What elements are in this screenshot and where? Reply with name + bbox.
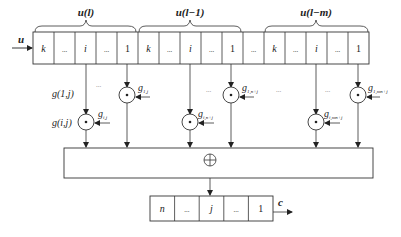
cell: ... [335, 46, 341, 54]
svg-text:gi,j: gi,j [98, 108, 108, 121]
cell: ... [251, 46, 257, 54]
multiplier-g-1-mn-j: g1,mn+j [350, 82, 388, 103]
output-register-cells: n ... j ... 1 [160, 203, 263, 214]
cell: ... [233, 206, 239, 214]
multiply-dot-icon [85, 121, 88, 124]
multiply-dot-icon [189, 121, 192, 124]
multiply-dot-icon [230, 94, 233, 97]
sum-box [64, 148, 373, 178]
output-label: c [278, 196, 283, 208]
cell: 1 [258, 203, 263, 214]
brace-u-l-m [265, 20, 368, 32]
cell: 1 [356, 43, 361, 54]
tap-lines [86, 64, 358, 147]
cell: ... [167, 46, 173, 54]
group-label-u-l-1: u(l−1) [176, 6, 205, 19]
group-label-u-l: u(l) [78, 6, 95, 19]
cell: ... [62, 46, 68, 54]
cell: i [189, 43, 192, 54]
multiplier-g-i-mn-j: gi,mn+j [308, 108, 343, 130]
multiply-dot-icon [315, 121, 318, 124]
cell: ... [209, 46, 215, 54]
multiplier-g-i-n-j: gi,n+j [182, 108, 214, 130]
cell: ... [184, 206, 190, 214]
cell: n [160, 203, 165, 214]
cell: 1 [230, 43, 235, 54]
svg-text:g1,n+j: g1,n+j [242, 82, 259, 95]
svg-text:...: ... [325, 86, 331, 94]
cell: ... [293, 46, 299, 54]
side-label-g-i-j: g(i,j) [52, 117, 72, 129]
multiply-dot-icon [357, 94, 360, 97]
svg-text:g1,mn+j: g1,mn+j [368, 82, 388, 95]
cell: j [208, 203, 213, 214]
svg-text:...: ... [276, 86, 282, 94]
multiply-dot-icon [126, 94, 129, 97]
convolutional-encoder-diagram: u(l) u(l−1) u(l−m) u k ... i ... 1 k ...… [0, 0, 401, 237]
svg-text:g1,j: g1,j [138, 82, 149, 95]
svg-text:...: ... [96, 81, 102, 89]
group-label-u-l-m: u(l−m) [300, 6, 332, 19]
svg-text:gi,mn+j: gi,mn+j [324, 108, 343, 121]
top-register-dividers [54, 32, 348, 64]
xor-sum-icon [204, 154, 216, 166]
brace-u-l [35, 20, 136, 32]
multiplier-g-1-j: g1,j [119, 82, 150, 103]
cell: k [272, 43, 277, 54]
cell: k [41, 43, 46, 54]
svg-text:gi,n+j: gi,n+j [198, 108, 214, 121]
multiplier-g-1-n-j: g1,n+j [223, 82, 259, 103]
multiplier-g-i-j: gi,j [78, 108, 110, 130]
cell: 1 [125, 43, 130, 54]
cell: i [315, 43, 318, 54]
side-label-g-1-j: g(1,j) [52, 88, 75, 100]
cell: k [146, 43, 151, 54]
brace-u-l-1 [139, 20, 241, 32]
input-label: u [18, 33, 24, 45]
cell: i [84, 43, 87, 54]
svg-text:...: ... [206, 86, 212, 94]
cell: ... [104, 46, 110, 54]
